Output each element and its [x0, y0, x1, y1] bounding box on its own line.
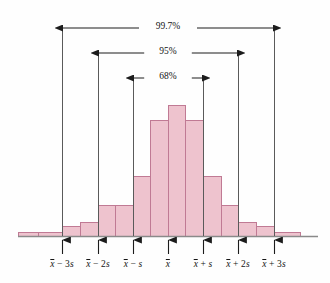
percentage-label-two-sigma: 95%	[157, 46, 179, 56]
histogram-bar	[257, 227, 275, 237]
histogram-bar	[116, 206, 134, 237]
histogram-bar	[63, 227, 81, 237]
tick-label-x-bar-minus-2s: x − 2s	[86, 259, 109, 269]
tick-label-x-bar-minus-s: x − s	[124, 259, 143, 269]
histogram-bar	[239, 223, 257, 237]
histogram-bar	[99, 206, 116, 237]
axis-tick-arrows	[63, 240, 275, 254]
histogram-bar	[222, 206, 239, 237]
tick-label-x-bar-plus-2s: x + 2s	[226, 259, 249, 269]
percentage-label-one-sigma: 68%	[157, 71, 179, 81]
tick-label-x-bar-plus-3s: x + 3s	[262, 259, 285, 269]
tick-label-x-bar-minus-3s: x − 3s	[50, 259, 73, 269]
percentage-label-three-sigma: 99.7%	[153, 21, 183, 31]
tick-label-x-bar: x	[166, 259, 170, 269]
figure-canvas	[0, 0, 330, 283]
histogram-bar	[81, 223, 99, 237]
histogram-bar	[204, 177, 222, 237]
histogram-bar	[151, 121, 169, 237]
histogram-bar	[169, 106, 186, 237]
empirical-rule-figure: 99.7%95%68% x − 3sx − 2sx − sxx + sx + 2…	[0, 0, 330, 283]
histogram-bar	[134, 177, 151, 237]
histogram-bars	[19, 106, 301, 237]
tick-label-x-bar-plus-s: x + s	[194, 259, 213, 269]
histogram-bar	[186, 121, 204, 237]
